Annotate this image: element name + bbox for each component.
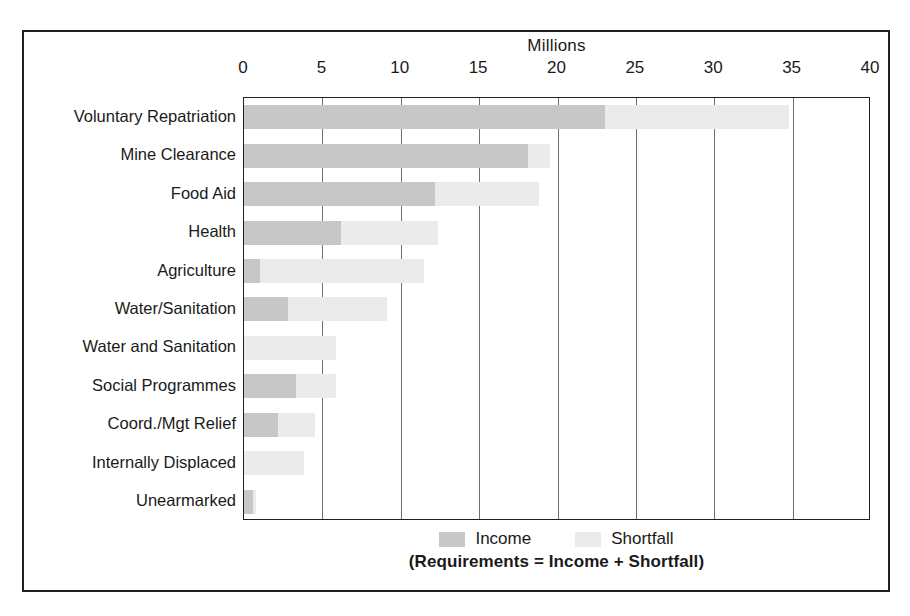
bar-row xyxy=(244,329,869,367)
legend-label: Income xyxy=(475,529,531,549)
bar-segment-income xyxy=(244,144,528,168)
bar-row xyxy=(244,98,869,136)
category-label: Health xyxy=(24,212,236,250)
bar-segment-income xyxy=(244,105,605,129)
x-tick-label: 0 xyxy=(238,58,247,78)
bar-rows xyxy=(244,98,869,519)
x-tick-label: 25 xyxy=(625,58,644,78)
plot-area xyxy=(243,97,870,520)
bar-row xyxy=(244,444,869,482)
legend-label: Shortfall xyxy=(611,529,673,549)
bar-segment-income xyxy=(244,182,435,206)
stacked-bar xyxy=(244,413,315,437)
category-label: Food Aid xyxy=(24,174,236,212)
legend-item: Shortfall xyxy=(575,529,673,549)
bar-segment-income xyxy=(244,413,278,437)
stacked-bar xyxy=(244,144,550,168)
bar-row xyxy=(244,136,869,174)
bar-row xyxy=(244,175,869,213)
bar-row xyxy=(244,213,869,251)
x-tick-label: 35 xyxy=(782,58,801,78)
stacked-bar xyxy=(244,451,304,475)
x-tick-label: 20 xyxy=(547,58,566,78)
bar-segment-income xyxy=(244,221,341,245)
category-label: Agriculture xyxy=(24,251,236,289)
bar-segment-shortfall xyxy=(244,451,304,475)
x-axis-tick-labels: 0510152025303540 xyxy=(243,58,870,80)
bar-segment-shortfall xyxy=(260,259,425,283)
bar-segment-shortfall xyxy=(278,413,314,437)
category-label: Water/Sanitation xyxy=(24,289,236,327)
bar-segment-shortfall xyxy=(296,374,337,398)
stacked-bar xyxy=(244,336,336,360)
bar-segment-income xyxy=(244,490,253,514)
stacked-bar xyxy=(244,490,256,514)
stacked-bar xyxy=(244,182,539,206)
bar-row xyxy=(244,367,869,405)
category-label: Water and Sanitation xyxy=(24,328,236,366)
bar-row xyxy=(244,290,869,328)
x-tick-label: 10 xyxy=(390,58,409,78)
legend-swatch xyxy=(575,532,601,547)
legend-item: Income xyxy=(439,529,531,549)
category-labels: Voluntary RepatriationMine ClearanceFood… xyxy=(24,97,236,520)
x-tick-label: 30 xyxy=(704,58,723,78)
chart-page: Millions 0510152025303540 Voluntary Repa… xyxy=(0,0,910,616)
x-tick-label: 40 xyxy=(861,58,880,78)
bar-segment-shortfall xyxy=(341,221,438,245)
bar-segment-shortfall xyxy=(253,490,256,514)
bar-row xyxy=(244,483,869,521)
bar-segment-shortfall xyxy=(435,182,538,206)
bar-segment-shortfall xyxy=(288,297,387,321)
stacked-bar xyxy=(244,105,789,129)
stacked-bar xyxy=(244,221,438,245)
chart-legend: IncomeShortfall xyxy=(243,528,870,550)
stacked-bar xyxy=(244,259,424,283)
x-axis-title: Millions xyxy=(243,36,870,56)
category-label: Internally Displaced xyxy=(24,443,236,481)
category-label: Voluntary Repatriation xyxy=(24,97,236,135)
category-label: Coord./Mgt Relief xyxy=(24,405,236,443)
x-tick-label: 15 xyxy=(469,58,488,78)
chart-footnote: (Requirements = Income + Shortfall) xyxy=(243,552,870,572)
legend-swatch xyxy=(439,532,465,547)
bar-row xyxy=(244,406,869,444)
x-tick-label: 5 xyxy=(317,58,326,78)
bar-segment-shortfall xyxy=(528,144,550,168)
bar-segment-income xyxy=(244,297,288,321)
stacked-bar xyxy=(244,374,336,398)
bar-row xyxy=(244,252,869,290)
bar-segment-shortfall xyxy=(244,336,336,360)
stacked-bar xyxy=(244,297,387,321)
bar-segment-income xyxy=(244,374,296,398)
category-label: Unearmarked xyxy=(24,482,236,520)
bar-segment-shortfall xyxy=(605,105,790,129)
category-label: Mine Clearance xyxy=(24,135,236,173)
bar-segment-income xyxy=(244,259,260,283)
category-label: Social Programmes xyxy=(24,366,236,404)
